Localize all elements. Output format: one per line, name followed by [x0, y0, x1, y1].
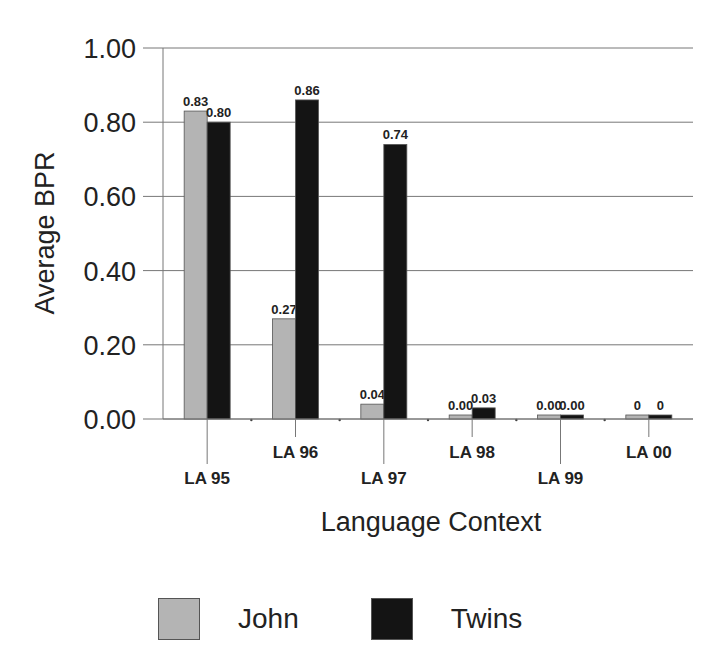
legend-item-twins: Twins — [371, 598, 523, 640]
bar-twins — [649, 415, 672, 419]
x-axis-title: Language Context — [321, 507, 542, 537]
legend-swatch-twins — [371, 598, 413, 640]
y-axis: 0.000.200.400.600.801.00 — [83, 34, 163, 435]
y-tick-label: 0.60 — [83, 182, 136, 212]
data-label: 0.27 — [271, 302, 296, 317]
bar-twins — [384, 144, 407, 419]
data-label: 0.04 — [360, 387, 386, 402]
data-label: 0.00 — [536, 398, 561, 413]
bar-john — [184, 111, 207, 419]
x-category-label: LA 98 — [449, 443, 495, 462]
bar-chart: 0.000.200.400.600.801.00 0.830.800.270.8… — [0, 0, 726, 657]
bar-twins — [207, 122, 230, 419]
bar-john — [273, 319, 296, 419]
data-label: 0.03 — [471, 391, 496, 406]
x-category-label: LA 96 — [273, 443, 319, 462]
x-category-label: LA 95 — [184, 469, 230, 488]
data-label: 0.80 — [206, 105, 231, 120]
bar-john — [361, 404, 384, 419]
legend-swatch-john — [158, 598, 200, 640]
bar-twins — [296, 100, 319, 419]
x-category-label: LA 99 — [538, 469, 584, 488]
y-tick-label: 0.20 — [83, 331, 136, 361]
data-label: 0 — [657, 398, 664, 413]
bar-twins — [561, 415, 584, 419]
data-label: 0.86 — [294, 83, 319, 98]
y-tick-label: 0.40 — [83, 257, 136, 287]
bars: 0.830.800.270.860.040.740.000.030.000.00… — [183, 83, 672, 419]
data-label: 0.83 — [183, 94, 208, 109]
bar-john — [538, 415, 561, 419]
data-label: 0.74 — [383, 127, 409, 142]
y-tick-label: 1.00 — [83, 34, 136, 64]
y-tick-label: 0.00 — [83, 405, 136, 435]
y-axis-title: Average BPR — [30, 151, 60, 314]
legend-label-twins: Twins — [451, 603, 523, 635]
data-label: 0 — [634, 398, 641, 413]
data-label: 0.00 — [448, 398, 473, 413]
x-category-label: LA 97 — [361, 469, 407, 488]
bar-twins — [472, 408, 495, 419]
legend-item-john: John — [158, 598, 299, 640]
x-category-label: LA 00 — [626, 443, 672, 462]
bar-john — [449, 415, 472, 419]
x-axis: LA 95LA 96LA 97LA 98LA 99LA 00 — [163, 419, 693, 488]
data-label: 0.00 — [559, 398, 584, 413]
legend-label-john: John — [238, 603, 299, 635]
y-tick-label: 0.80 — [83, 108, 136, 138]
bar-john — [626, 415, 649, 419]
legend: John Twins — [158, 598, 594, 640]
